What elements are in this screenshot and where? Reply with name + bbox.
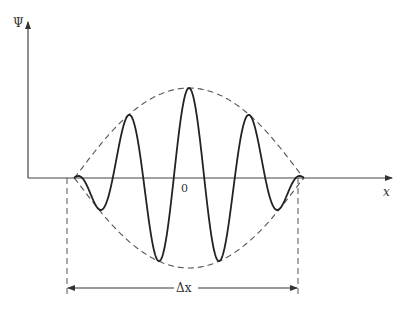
- wave-function-curve: [74, 88, 304, 261]
- x-axis-label: x: [383, 185, 390, 199]
- wave-packet-diagram: Ψ x 0 Δx: [0, 0, 414, 309]
- origin-label: 0: [181, 182, 188, 195]
- upper-envelope: [74, 88, 304, 178]
- y-axis-label: Ψ: [13, 16, 24, 30]
- lower-envelope: [74, 178, 304, 268]
- width-label: Δx: [176, 281, 192, 295]
